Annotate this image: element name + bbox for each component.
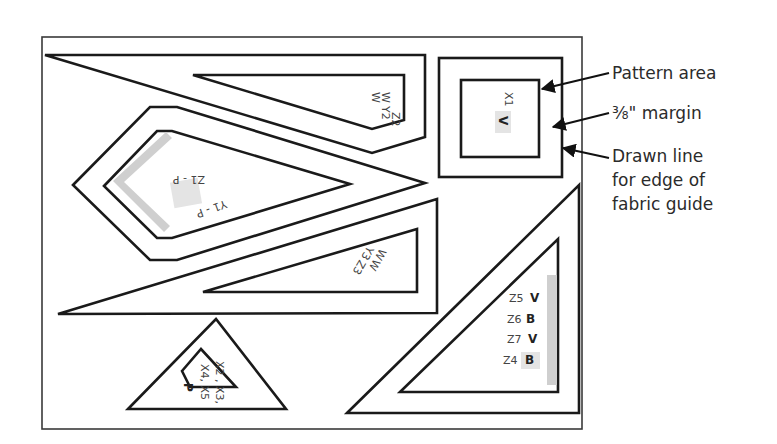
- right-triangle-grain-highlight: [547, 275, 557, 385]
- right-triangle-code-3: Z7: [507, 333, 522, 346]
- pattern-area-arrow: [542, 73, 609, 89]
- callout-drawn-line-3: fabric guide: [612, 194, 713, 214]
- right-triangle-letter-1: V: [530, 291, 540, 305]
- small-triangle-label-1: X2 , X3,: [213, 361, 226, 404]
- piece-right-triangle: Z5 V Z6 B Z7 V Z4 B: [347, 185, 579, 413]
- callout-pattern-area: Pattern area: [612, 63, 716, 83]
- small-triangle-label-3: P: [181, 383, 195, 392]
- small-triangle-label-2: X4, X5: [198, 364, 211, 400]
- callout-margin: ⅜" margin: [612, 103, 702, 123]
- right-triangle-fabric-guide: [347, 185, 579, 413]
- piece-square: X1 V: [439, 58, 562, 177]
- long-triangle-label-4: Z3: [350, 258, 369, 277]
- piece-top-wedge: W W Y2 Z2: [45, 55, 425, 153]
- top-wedge-label-2: W: [369, 92, 382, 103]
- right-triangle-letter-4: B: [525, 353, 534, 367]
- callout-drawn-line-1: Drawn line: [612, 146, 703, 166]
- kite-pattern-area: [104, 131, 350, 238]
- square-label-letter: V: [496, 116, 510, 126]
- right-triangle-code-4: Z4: [503, 354, 518, 367]
- square-label-code: X1: [502, 92, 515, 107]
- top-wedge-labels: W W Y2 Z2: [369, 92, 402, 127]
- callout-drawn-line-2: for edge of: [612, 170, 706, 190]
- callouts: Pattern area ⅜" margin Drawn line for ed…: [542, 63, 716, 214]
- kite-label-a: Z1 - P: [173, 173, 205, 186]
- drawn-line-arrow: [563, 148, 609, 158]
- right-triangle-letter-3: V: [528, 332, 538, 346]
- right-triangle-code-1: Z5: [509, 292, 524, 305]
- right-triangle-code-2: Z6: [507, 313, 522, 326]
- pattern-layout-diagram: W W Y2 Z2 X1 V Z1 - P Y1 - P: [0, 0, 777, 444]
- piece-small-triangle: X2 , X3, X4, X5 P: [128, 319, 286, 409]
- top-wedge-fabric-guide: [45, 55, 425, 153]
- right-triangle-letter-2: B: [526, 312, 535, 326]
- top-wedge-label-4: Z2: [389, 112, 402, 127]
